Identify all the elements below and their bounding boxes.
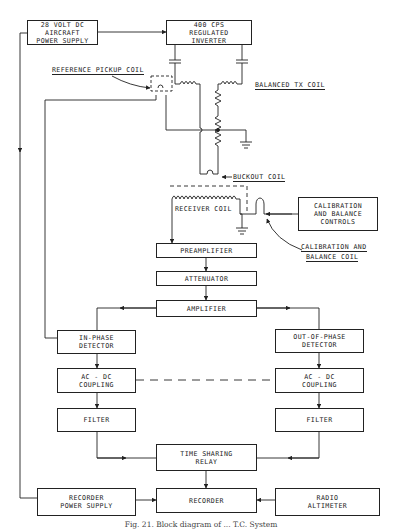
out-of-phase-detector-block: OUT-OF-PHASE DETECTOR: [275, 329, 364, 353]
block-line: PREAMPLIFIER: [180, 247, 232, 255]
block-line: POWER SUPPLY: [36, 37, 88, 45]
block-line: CONTROLS: [321, 218, 356, 226]
block-line: TIME SHARING: [180, 450, 232, 458]
block-line: AC - DC: [81, 373, 112, 381]
block-line: AC - DC: [304, 373, 335, 381]
block-line: RECORDER: [69, 494, 104, 502]
block-line: RADIO: [317, 494, 339, 502]
block-line: AND BALANCE: [314, 210, 362, 218]
calibration-coil-label-line2: BALANCE COIL: [306, 253, 358, 262]
block-line: REGULATED: [189, 29, 228, 37]
reference-pickup-coil-label: REFERENCE PICKUP COIL: [52, 66, 144, 75]
block-line: COUPLING: [79, 381, 114, 389]
preamplifier-block: PREAMPLIFIER: [156, 243, 257, 258]
regulated-inverter-block: 400 CPS REGULATED INVERTER: [166, 20, 252, 45]
aircraft-power-supply-block: 28 VOLT DC AIRCRAFT POWER SUPPLY: [27, 20, 98, 45]
block-line: FILTER: [306, 416, 332, 424]
block-line: RELAY: [196, 458, 218, 466]
block-line: COUPLING: [302, 381, 337, 389]
block-line: OUT-OF-PHASE: [293, 333, 345, 341]
in-phase-detector-block: IN-PHASE DETECTOR: [57, 330, 136, 354]
block-line: IN-PHASE: [79, 334, 114, 342]
ac-dc-coupling-right-block: AC - DC COUPLING: [275, 368, 364, 393]
receiver-coil-label: RECEIVER COIL: [175, 205, 232, 213]
block-line: 400 CPS: [194, 21, 225, 29]
attenuator-block: ATTENUATOR: [156, 271, 257, 286]
filter-right-block: FILTER: [275, 408, 364, 432]
block-line: AMPLIFIER: [187, 305, 226, 313]
amplifier-block: AMPLIFIER: [156, 300, 257, 317]
time-sharing-relay-block: TIME SHARING RELAY: [156, 444, 257, 471]
recorder-block: RECORDER: [156, 488, 257, 513]
block-line: INVERTER: [192, 37, 227, 45]
figure-caption: Fig. 21. Block diagram of ... T.C. Syste…: [0, 520, 402, 529]
block-line: ATTENUATOR: [185, 275, 229, 283]
filter-left-block: FILTER: [57, 408, 136, 432]
calibration-coil-label-line1: CALIBRATION AND: [301, 243, 367, 252]
block-line: RECORDER: [189, 497, 224, 505]
block-line: FILTER: [83, 416, 109, 424]
block-line: 28 VOLT DC: [41, 21, 85, 29]
block-line: DETECTOR: [302, 341, 337, 349]
block-line: CALIBRATION: [314, 202, 362, 210]
ac-dc-coupling-left-block: AC - DC COUPLING: [57, 368, 136, 393]
buckout-coil-label: BUCKOUT COIL: [233, 173, 285, 182]
block-line: AIRCRAFT: [45, 29, 80, 37]
block-line: ALTIMETER: [308, 502, 347, 510]
radio-altimeter-block: RADIO ALTIMETER: [275, 488, 380, 516]
balanced-tx-coil-label: BALANCED TX COIL: [255, 81, 325, 90]
calibration-controls-block: CALIBRATION AND BALANCE CONTROLS: [298, 197, 378, 231]
block-line: POWER SUPPLY: [60, 502, 112, 510]
block-line: DETECTOR: [79, 342, 114, 350]
recorder-power-supply-block: RECORDER POWER SUPPLY: [37, 488, 136, 516]
